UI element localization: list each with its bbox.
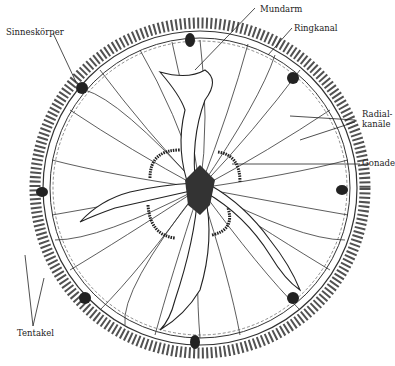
gonad-lower-right bbox=[212, 208, 230, 235]
label-mundarm: Mundarm bbox=[260, 5, 302, 14]
label-ringkanal: Ringkanal bbox=[294, 24, 338, 33]
gonad-lower-left bbox=[148, 205, 175, 238]
label-tentakel: Tentakel bbox=[17, 329, 54, 338]
label-sinneskoerper: Sinneskörper bbox=[6, 28, 64, 37]
gonad-upper-left bbox=[150, 150, 180, 178]
label-radialkanaele-line1: Radial- bbox=[362, 110, 392, 119]
leader-tentakel-1 bbox=[25, 255, 33, 326]
leader-mundarm bbox=[195, 8, 255, 70]
leader-tentakel-2 bbox=[33, 278, 44, 326]
label-radialkanaele-line2: kanäle bbox=[362, 120, 391, 129]
oral-arm-right bbox=[205, 185, 300, 290]
label-gonade: Gonade bbox=[362, 159, 395, 168]
leader-sinneskoerper bbox=[53, 33, 76, 82]
